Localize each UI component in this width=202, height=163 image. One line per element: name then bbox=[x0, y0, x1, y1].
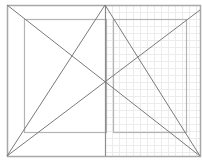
inner-left-rectangle bbox=[25, 20, 107, 133]
construction-lines bbox=[7, 5, 200, 156]
diagonal-tl-br-line bbox=[7, 5, 200, 156]
geometric-construction-diagram bbox=[0, 0, 202, 163]
diagram-svg bbox=[0, 0, 202, 163]
apex-to-bottom-left-line bbox=[7, 5, 105, 156]
